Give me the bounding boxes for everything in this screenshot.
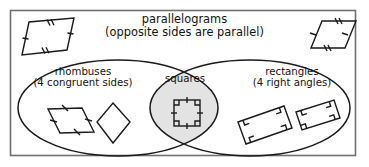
venn-diagram: parallelograms (opposite sides are paral… [0,0,369,167]
venn-diagram-canvas [0,0,369,167]
